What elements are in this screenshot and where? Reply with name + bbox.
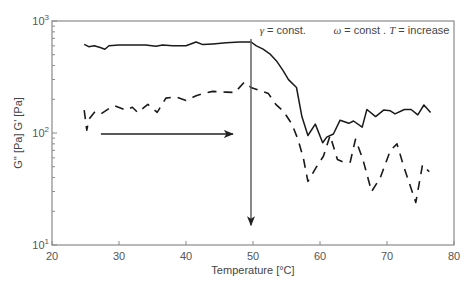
y-axis-title: G'' [Pa] G' [Pa] <box>12 97 24 169</box>
x-tick-label: 50 <box>247 250 259 262</box>
gamma-const-annotation: γ = const. <box>260 24 306 36</box>
x-tick-label: 80 <box>448 250 460 262</box>
x-tick-label: 40 <box>180 250 192 262</box>
series-layer <box>84 42 430 202</box>
annotation-layer: γ = const.ω = const . T = increase <box>260 24 450 36</box>
x-tick-label: 60 <box>314 250 326 262</box>
x-tick-label: 70 <box>381 250 393 262</box>
y-tick-label: 102 <box>32 125 49 139</box>
g-double-prime-series <box>84 82 429 202</box>
g-prime-series <box>84 42 430 143</box>
plot-frame <box>52 21 454 245</box>
y-tick-label: 101 <box>32 237 49 251</box>
x-tick-label: 20 <box>46 250 58 262</box>
y-axis: 101102103 <box>32 13 57 251</box>
x-axis: 20304050607080 <box>46 241 460 262</box>
omega-const-annotation: ω = const . T = increase <box>333 24 449 36</box>
plot-border <box>52 21 454 245</box>
x-axis-title: Temperature [°C] <box>211 264 294 276</box>
y-tick-label: 103 <box>32 13 49 27</box>
rheology-chart: 101102103 20304050607080 γ = const.ω = c… <box>0 0 474 290</box>
arrow-layer <box>101 39 251 225</box>
x-tick-label: 30 <box>113 250 125 262</box>
